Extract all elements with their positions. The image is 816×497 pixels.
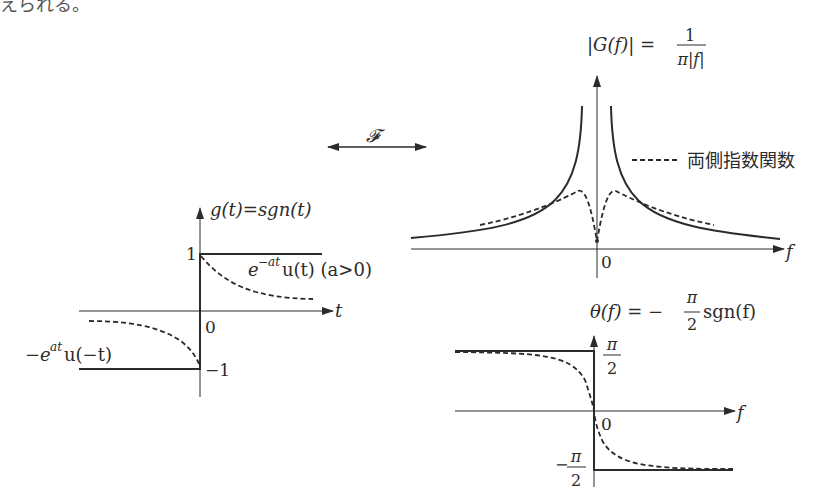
- phase-title: θ(f) = − π 2 sgn(f): [590, 288, 756, 334]
- tick-1-label: 1: [186, 244, 197, 264]
- tick-minus1-label: −1: [205, 360, 230, 380]
- fourier-transform-arrow: 𝓕: [328, 125, 426, 147]
- svg-text:−at: −at: [258, 255, 280, 269]
- svg-text:θ(f) = −: θ(f) = −: [590, 301, 663, 322]
- magnitude-x-axis-label: f: [784, 241, 796, 262]
- phase-chart: θ(f) = − π 2 sgn(f) π 2 − π 2 f 0: [455, 288, 756, 490]
- phase-origin-label: 0: [601, 414, 612, 434]
- tick-minus-pi-over-2: − π 2: [555, 447, 586, 490]
- svg-text:両側指数関数: 両側指数関数: [687, 150, 795, 171]
- time-chart-title: g(t)=sgn(t): [210, 199, 312, 220]
- svg-text:2: 2: [607, 359, 617, 378]
- svg-text:2: 2: [687, 315, 697, 334]
- magnitude-title: |G(f)| = 1 π|f|: [587, 26, 706, 69]
- fourier-symbol: 𝓕: [366, 125, 386, 146]
- svg-text:2: 2: [571, 471, 581, 490]
- phase-x-axis-label: f: [735, 402, 747, 423]
- fourier-transform-figure: 𝓕 g(t)=sgn(t) t 0 1 −1 e −at u(t) (a>0) …: [0, 0, 816, 497]
- legend-two-sided-exponential: 両側指数関数: [632, 150, 795, 171]
- svg-text:π: π: [570, 447, 582, 466]
- zero-point-marker: [595, 239, 599, 243]
- svg-text:u(−t): u(−t): [64, 344, 112, 365]
- time-origin-label: 0: [205, 317, 216, 337]
- svg-text:π|f|: π|f|: [676, 50, 704, 69]
- svg-text:|G(f)| =: |G(f)| =: [587, 34, 655, 56]
- time-domain-chart: g(t)=sgn(t) t 0 1 −1 e −at u(t) (a>0) −e…: [25, 199, 372, 397]
- svg-text:sgn(f): sgn(f): [703, 301, 756, 322]
- magnitude-curve-right: [611, 106, 780, 239]
- svg-text:−e: −e: [25, 344, 51, 365]
- svg-text:at: at: [50, 340, 62, 354]
- svg-text:π: π: [606, 335, 618, 354]
- magnitude-curve-left: [411, 106, 582, 238]
- magnitude-origin-label: 0: [601, 252, 612, 272]
- negative-curve-label: −e at u(−t): [25, 340, 112, 365]
- positive-curve-label: e −at u(t) (a>0): [248, 255, 372, 280]
- svg-text:1: 1: [685, 26, 695, 45]
- svg-text:u(t) (a>0): u(t) (a>0): [282, 259, 372, 280]
- tick-pi-over-2: π 2: [603, 335, 621, 378]
- svg-text:π: π: [686, 288, 698, 307]
- time-x-axis-label: t: [335, 300, 343, 321]
- svg-text:−: −: [555, 455, 568, 474]
- magnitude-chart: |G(f)| = 1 π|f| 両側指数関数 f 0: [411, 26, 796, 278]
